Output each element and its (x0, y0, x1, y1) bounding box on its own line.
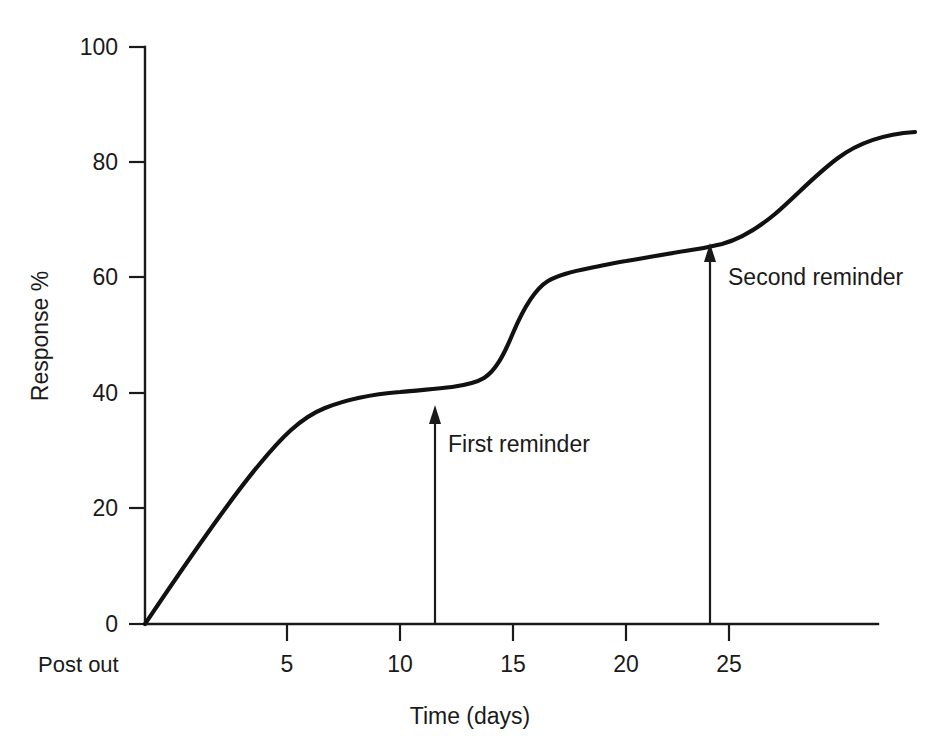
origin-label-post-out: Post out (38, 652, 119, 677)
x-axis-title: Time (days) (410, 703, 531, 729)
x-tick-label-5: 5 (281, 651, 294, 677)
x-tick-label-20: 20 (613, 651, 639, 677)
y-tick-label-40: 40 (92, 380, 118, 406)
chart-page: 100 80 60 40 20 0 Response % 5 10 15 (0, 0, 952, 740)
y-tick-label-60: 60 (92, 264, 118, 290)
y-tick-label-20: 20 (92, 495, 118, 521)
second-reminder-label: Second reminder (728, 264, 903, 290)
first-reminder-label: First reminder (448, 431, 590, 457)
x-tick-label-15: 15 (500, 651, 526, 677)
x-tick-label-10: 10 (387, 651, 413, 677)
y-axis-title: Response % (27, 271, 53, 401)
y-tick-label-0: 0 (105, 611, 118, 637)
y-tick-label-100: 100 (80, 34, 118, 60)
y-tick-label-80: 80 (92, 149, 118, 175)
response-rate-line-chart: 100 80 60 40 20 0 Response % 5 10 15 (0, 0, 952, 740)
chart-background (0, 0, 952, 740)
x-tick-label-25: 25 (716, 651, 742, 677)
